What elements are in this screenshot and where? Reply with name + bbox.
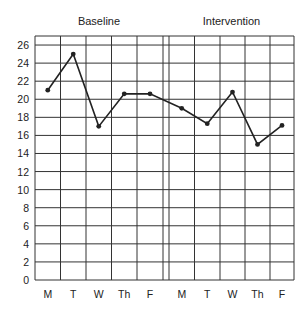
y-tick-label: 0 <box>23 274 29 286</box>
y-axis-tick-labels: 02468101214161820222426 <box>17 39 29 286</box>
data-point <box>280 123 285 128</box>
y-tick-label: 14 <box>17 147 29 159</box>
x-tick-label: W <box>228 288 238 300</box>
data-point <box>122 91 127 96</box>
data-point <box>71 52 76 57</box>
x-tick-label: F <box>147 288 153 300</box>
y-tick-label: 20 <box>17 93 29 105</box>
x-tick-label: Th <box>118 288 130 300</box>
x-tick-label: Th <box>251 288 263 300</box>
y-tick-label: 4 <box>23 238 29 250</box>
data-point <box>179 106 184 111</box>
y-tick-label: 18 <box>17 111 29 123</box>
data-point <box>148 91 153 96</box>
y-tick-label: 6 <box>23 220 29 232</box>
y-tick-label: 10 <box>17 184 29 196</box>
y-tick-label: 16 <box>17 129 29 141</box>
y-tick-label: 12 <box>17 166 29 178</box>
y-tick-label: 2 <box>23 256 29 268</box>
x-tick-label: M <box>43 288 52 300</box>
x-tick-label: M <box>177 288 186 300</box>
y-tick-label: 8 <box>23 202 29 214</box>
y-tick-label: 22 <box>17 75 29 87</box>
data-point <box>45 88 50 93</box>
x-tick-label: T <box>70 288 77 300</box>
x-axis-tick-labels: MTWThFMTWThF <box>43 288 285 300</box>
data-point <box>96 124 101 129</box>
x-tick-label: T <box>204 288 211 300</box>
phase-label-intervention: Intervention <box>203 15 260 27</box>
data-point <box>205 121 210 126</box>
line-chart: BaselineIntervention 0246810121416182022… <box>0 0 308 311</box>
grid <box>35 36 294 280</box>
phase-labels: BaselineIntervention <box>78 15 260 27</box>
data-point <box>255 142 260 147</box>
y-tick-label: 24 <box>17 57 29 69</box>
x-tick-label: W <box>94 288 104 300</box>
data-point <box>230 90 235 95</box>
phase-label-baseline: Baseline <box>78 15 120 27</box>
x-tick-label: F <box>279 288 285 300</box>
y-tick-label: 26 <box>17 39 29 51</box>
